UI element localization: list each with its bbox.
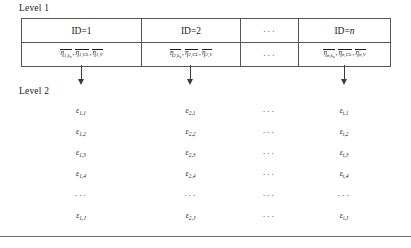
id-prefix: ID=	[334, 26, 349, 36]
level-1-parameter-cell-2: η2,ka,η2,CL,η2,V	[142, 43, 241, 67]
level-1-header-cell-1: ID=1	[22, 19, 142, 43]
epsilon-subscript: i,1	[343, 109, 349, 115]
arrow-head-icon	[341, 79, 347, 85]
epsilon-subscript: i,3	[343, 151, 349, 157]
level-2-row: ε1,3ε2,3···εi,3	[21, 142, 390, 163]
arrow-head-icon	[78, 79, 84, 85]
level-1-header-cell-3: ···	[241, 19, 299, 43]
id-prefix: ID=	[71, 26, 86, 36]
eta-subscript: 1,V	[96, 53, 103, 58]
epsilon-subscript: 2,2	[189, 130, 196, 136]
eta-subscript: 2,V	[205, 53, 212, 58]
epsilon-subscript: 1,4	[79, 172, 86, 178]
level-1-parameter-cell-3: ···	[241, 43, 299, 67]
level-2-cell-r3-c1: ε1,3	[21, 148, 141, 158]
level-2-cell-r6-c1: ε1,J	[21, 211, 141, 221]
level-2-cell-r6-c3: ···	[240, 211, 298, 221]
epsilon-subscript: i,J	[343, 214, 348, 220]
eta-subscript: 1,ka	[64, 53, 72, 58]
level-1-label: Level 1	[19, 3, 49, 13]
ellipsis: ···	[74, 190, 87, 200]
level-2-cell-r2-c4: εi,2	[298, 127, 390, 137]
level-2-cell-r5-c4: ···	[298, 190, 390, 200]
level-2-cell-r5-c3: ···	[240, 190, 298, 200]
eta-term: η2,V	[202, 49, 212, 58]
level-2-cell-r1-c4: εi,1	[298, 106, 390, 116]
level-2-grid: ε1,1ε2,1···εi,1ε1,2ε2,2···εi,2ε1,3ε2,3··…	[21, 100, 390, 226]
level-2-cell-r2-c3: ···	[240, 127, 298, 137]
level-2-cell-r5-c2: ···	[141, 190, 240, 200]
epsilon-subscript: 2,3	[189, 151, 196, 157]
eta-term: ηn,ka	[323, 49, 334, 59]
level-2-cell-r3-c2: ε2,3	[141, 148, 240, 158]
epsilon-subscript: 1,J	[79, 214, 86, 220]
epsilon-subscript: i,2	[343, 130, 349, 136]
level-2-cell-r4-c2: ε2,4	[141, 169, 240, 179]
level-1-header-row: ID=1ID=2···ID=n	[22, 19, 391, 43]
eta-term: η2,CL	[185, 49, 198, 58]
eta-subscript: 1,CL	[79, 53, 89, 58]
level-2-cell-r4-c1: ε1,4	[21, 169, 141, 179]
eta-subscript: 2,CL	[188, 53, 198, 58]
eta-term: η1,CL	[75, 49, 88, 58]
epsilon-subscript: i,4	[343, 172, 349, 178]
level-1-parameter-row: η1,ka,η1,CL,η1,Vη2,ka,η2,CL,η2,V···ηn,ka…	[22, 43, 391, 67]
id-index: 2	[196, 26, 201, 36]
figure-canvas: Level 1 ID=1ID=2···ID=n η1,ka,η1,CL,η1,V…	[0, 0, 411, 248]
ellipsis: ···	[184, 190, 197, 200]
level-2-cell-r1-c1: ε1,1	[21, 106, 141, 116]
arrow-head-icon	[187, 79, 193, 85]
level-2-row: ε1,Jε2,J···εi,J	[21, 205, 390, 226]
level-2-cell-r2-c1: ε1,2	[21, 127, 141, 137]
level-2-cell-r4-c4: εi,4	[298, 169, 390, 179]
level-2-cell-r6-c2: ε2,J	[141, 211, 240, 221]
level-2-row: ε1,2ε2,2···εi,2	[21, 121, 390, 142]
level-2-row: ············	[21, 184, 390, 205]
level-2-cell-r1-c2: ε2,1	[141, 106, 240, 116]
ellipsis: ···	[262, 127, 275, 137]
level-2-cell-r1-c3: ···	[240, 106, 298, 116]
level-2-cell-r5-c1: ···	[21, 190, 141, 200]
level-2-row: ε1,4ε2,4···εi,4	[21, 163, 390, 184]
epsilon-subscript: 2,4	[189, 172, 196, 178]
eta-subscript: n,V	[359, 53, 366, 58]
level-2-cell-r3-c4: εi,3	[298, 148, 390, 158]
bottom-divider	[0, 236, 411, 237]
eta-term: ηn,V	[355, 49, 365, 58]
ellipsis: ···	[262, 106, 275, 116]
eta-term: η2,ka	[170, 49, 181, 59]
eta-subscript: 2,ka	[173, 53, 181, 58]
id-prefix: ID=	[181, 26, 196, 36]
level-1-header-cell-4: ID=n	[299, 19, 391, 43]
level-1-parameter-cell-4: ηn,ka,ηn,CL,ηn,V	[299, 43, 391, 67]
id-index: 1	[87, 26, 92, 36]
ellipsis: ···	[263, 50, 276, 60]
epsilon-subscript: 2,J	[189, 214, 196, 220]
level-2-cell-r2-c2: ε2,2	[141, 127, 240, 137]
eta-subscript: n,ka	[327, 53, 335, 58]
epsilon-subscript: 2,1	[189, 109, 196, 115]
level-2-row: ε1,1ε2,1···εi,1	[21, 100, 390, 121]
eta-subscript: n,CL	[342, 53, 352, 58]
epsilon-subscript: 1,1	[79, 109, 86, 115]
ellipsis: ···	[262, 211, 275, 221]
ellipsis: ···	[262, 190, 275, 200]
id-index: ···	[263, 26, 276, 36]
level-1-parameter-cell-1: η1,ka,η1,CL,η1,V	[22, 43, 142, 67]
eta-term: η1,ka	[60, 49, 71, 59]
level-1-table: ID=1ID=2···ID=n η1,ka,η1,CL,η1,Vη2,ka,η2…	[21, 18, 391, 67]
epsilon-subscript: 1,2	[79, 130, 86, 136]
level-2-cell-r4-c3: ···	[240, 169, 298, 179]
ellipsis: ···	[262, 169, 275, 179]
ellipsis: ···	[337, 190, 350, 200]
level-2-cell-r6-c4: εi,J	[298, 211, 390, 221]
epsilon-subscript: 1,3	[79, 151, 86, 157]
eta-term: ηn,CL	[338, 49, 351, 58]
level-2-cell-r3-c3: ···	[240, 148, 298, 158]
level-1-header-cell-2: ID=2	[142, 19, 241, 43]
id-index-italic: n	[350, 26, 355, 36]
level-2-label: Level 2	[19, 86, 49, 96]
ellipsis: ···	[262, 148, 275, 158]
eta-term: η1,V	[92, 49, 102, 58]
